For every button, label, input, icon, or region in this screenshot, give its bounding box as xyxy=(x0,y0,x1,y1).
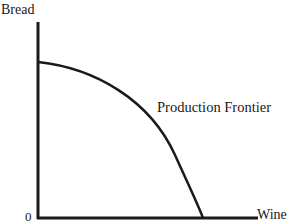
origin-label: 0 xyxy=(25,209,32,223)
production-frontier-curve xyxy=(38,62,203,218)
curve-label: Production Frontier xyxy=(157,99,271,116)
production-possibility-diagram: Bread Wine 0 Production Frontier xyxy=(0,0,295,223)
x-axis-label: Wine xyxy=(257,207,287,223)
y-axis-label: Bread xyxy=(1,2,34,18)
